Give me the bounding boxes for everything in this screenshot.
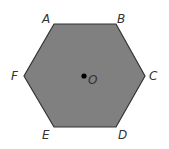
center-point [81, 73, 86, 78]
vertex-label-e: E [42, 128, 50, 142]
vertex-label-d: D [118, 128, 127, 142]
vertex-label-c: C [149, 69, 158, 83]
hexagon-diagram: O A B C D E F [0, 0, 169, 149]
center-label: O [88, 73, 97, 87]
vertex-label-b: B [117, 12, 125, 26]
vertex-label-a: A [41, 12, 50, 26]
vertex-label-f: F [11, 69, 19, 83]
